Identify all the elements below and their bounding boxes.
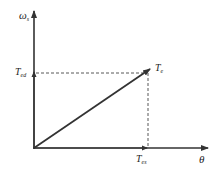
te-vector	[34, 69, 150, 148]
y-axis-label: ωs	[19, 10, 29, 22]
ted-label: Ted	[15, 67, 26, 78]
te-label: Te	[155, 63, 163, 74]
vector-diagram	[0, 0, 218, 176]
tes-label: Tes	[136, 154, 147, 165]
x-axis-label: θ	[199, 154, 204, 165]
